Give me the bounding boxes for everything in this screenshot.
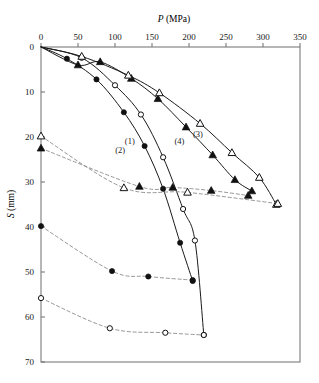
data-point-filled-circle: [142, 143, 147, 148]
figure-container: 050100150200250300350 010203040506070 (1…: [0, 0, 319, 383]
data-point-open-circle: [107, 326, 112, 331]
y-tick-label: 60: [25, 312, 35, 322]
y-tick-label: 10: [25, 87, 35, 97]
y-tick-label: 20: [25, 132, 35, 142]
data-point-filled-circle: [109, 269, 114, 274]
data-point-filled-circle: [178, 240, 183, 245]
x-axis-title: P (MPa): [157, 14, 190, 25]
x-tick-label: 250: [219, 32, 233, 42]
y-tick-label: 50: [25, 267, 35, 277]
data-point-open-circle: [161, 155, 166, 160]
data-point-filled-circle: [161, 186, 166, 191]
data-point-filled-circle: [38, 224, 43, 229]
y-tick-label: 70: [25, 357, 35, 367]
x-tick-label: 0: [39, 32, 44, 42]
data-point-open-circle: [38, 296, 43, 301]
data-point-open-circle: [201, 332, 206, 337]
data-point-open-circle: [163, 330, 168, 335]
curve-label: (1): [125, 136, 135, 146]
y-tick-label: 30: [25, 177, 35, 187]
data-point-open-circle: [112, 83, 117, 88]
data-point-filled-circle: [64, 56, 69, 61]
data-point-filled-circle: [190, 278, 195, 283]
x-tick-label: 350: [293, 32, 307, 42]
y-tick-label: 0: [30, 42, 35, 52]
plot-background: [0, 0, 319, 383]
data-point-open-circle: [192, 238, 197, 243]
curve-label: (4): [174, 136, 184, 146]
data-point-filled-circle: [121, 110, 126, 115]
y-tick-label: 40: [25, 222, 35, 232]
x-tick-label: 300: [256, 32, 270, 42]
data-point-filled-circle: [146, 274, 151, 279]
data-point-filled-circle: [94, 77, 99, 82]
data-point-open-circle: [180, 206, 185, 211]
x-tick-label: 200: [182, 32, 196, 42]
x-tick-label: 150: [145, 32, 159, 42]
y-axis-title: S (mm): [6, 190, 17, 218]
curve-label: (3): [193, 129, 203, 139]
scientific-plot: 050100150200250300350 010203040506070 (1…: [0, 0, 319, 383]
x-tick-label: 50: [74, 32, 84, 42]
data-point-open-circle: [138, 112, 143, 117]
curve-label: (2): [115, 145, 125, 155]
x-tick-label: 100: [108, 32, 122, 42]
